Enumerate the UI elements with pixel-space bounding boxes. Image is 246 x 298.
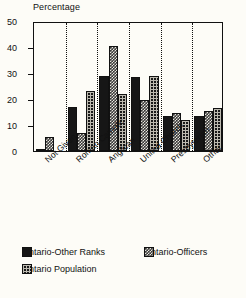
legend-row: Ontario-Other RanksOntario-Officers	[22, 248, 237, 265]
group-separator	[192, 23, 193, 151]
bar	[140, 100, 149, 151]
plot-inner	[34, 23, 222, 151]
y-tick-mark	[28, 74, 33, 75]
y-tick-mark	[28, 100, 33, 101]
legend-item: Ontario-Other Ranks	[22, 248, 105, 257]
group-separator	[66, 23, 67, 151]
y-tick-label: 0	[0, 148, 17, 157]
y-tick-label: 30	[0, 70, 17, 79]
chart-legend: Ontario-Other RanksOntario-OfficersOntar…	[22, 248, 237, 282]
legend-label: Ontario-Other Ranks	[22, 248, 105, 257]
legend-swatch-icon	[22, 247, 32, 257]
legend-swatch-icon	[144, 247, 154, 257]
group-separator	[161, 23, 162, 151]
legend-label: Ontario Population	[22, 265, 97, 274]
chart-title: Percentage	[33, 2, 80, 12]
legend-row: Ontario Population	[22, 265, 237, 282]
y-tick-mark	[28, 48, 33, 49]
y-tick-mark	[28, 126, 33, 127]
bar	[36, 149, 45, 151]
percentage-bar-chart: Percentage Ontario-Other RanksOntario-Of…	[0, 0, 246, 298]
y-tick-label: 10	[0, 122, 17, 131]
legend-item: Ontario Population	[22, 265, 97, 274]
group-separator	[97, 23, 98, 151]
legend-item: Ontario-Officers	[144, 248, 207, 257]
group-separator	[129, 23, 130, 151]
y-tick-label: 40	[0, 44, 17, 53]
y-tick-label: 20	[0, 96, 17, 105]
legend-swatch-icon	[22, 264, 32, 274]
y-tick-label: 50	[0, 18, 17, 27]
